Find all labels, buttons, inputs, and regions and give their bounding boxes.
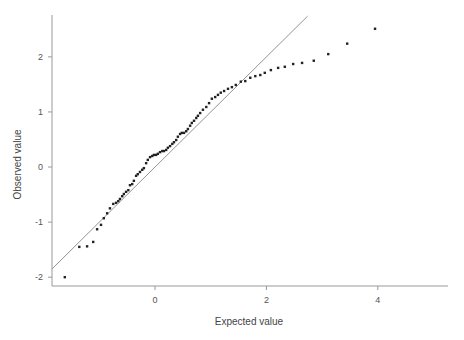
data-point xyxy=(202,109,204,111)
x-tick-label: 0 xyxy=(153,295,158,305)
data-point xyxy=(121,195,123,197)
x-tick-label: 2 xyxy=(264,295,269,305)
data-point xyxy=(208,102,210,104)
data-point xyxy=(177,136,179,138)
data-point xyxy=(86,245,88,247)
data-point xyxy=(149,156,151,158)
data-point xyxy=(159,151,161,153)
x-tick-label: 4 xyxy=(375,295,380,305)
data-point xyxy=(173,141,175,143)
data-point xyxy=(131,183,133,185)
data-point xyxy=(193,120,195,122)
data-point xyxy=(249,77,251,79)
data-point xyxy=(165,149,167,151)
data-point xyxy=(147,159,149,161)
data-point xyxy=(169,145,171,147)
data-point xyxy=(106,212,108,214)
reference-line xyxy=(52,16,308,269)
data-point xyxy=(115,202,117,204)
data-point xyxy=(125,191,127,193)
data-point xyxy=(254,75,256,77)
data-point xyxy=(313,60,315,62)
data-point xyxy=(223,90,225,92)
data-point xyxy=(78,246,80,248)
data-point xyxy=(127,189,129,191)
data-point xyxy=(191,122,193,124)
data-point xyxy=(227,88,229,90)
data-point xyxy=(123,193,125,195)
y-axis-title: Observed value xyxy=(12,129,23,199)
y-tick-label: 0 xyxy=(38,162,43,172)
data-point xyxy=(112,203,114,205)
data-point xyxy=(64,276,66,278)
data-point xyxy=(231,86,233,88)
y-tick-label: 2 xyxy=(38,52,43,62)
data-point xyxy=(264,72,266,74)
data-point xyxy=(214,96,216,98)
data-point xyxy=(197,115,199,117)
data-point xyxy=(100,224,102,226)
data-point xyxy=(133,180,135,182)
data-point xyxy=(145,162,147,164)
data-point xyxy=(374,28,376,30)
data-point xyxy=(167,147,169,149)
data-point xyxy=(143,167,145,169)
x-axis-title: Expected value xyxy=(215,316,284,327)
data-point xyxy=(103,217,105,219)
data-point xyxy=(109,207,111,209)
data-point xyxy=(175,139,177,141)
y-tick-label: -1 xyxy=(35,217,43,227)
data-point xyxy=(129,184,131,186)
data-point xyxy=(181,132,183,134)
data-point xyxy=(240,80,242,82)
data-point xyxy=(244,80,246,82)
data-point xyxy=(235,84,237,86)
data-point xyxy=(220,91,222,93)
data-point xyxy=(163,150,165,152)
data-point xyxy=(195,117,197,119)
data-point xyxy=(119,198,121,200)
data-point xyxy=(292,63,294,65)
data-point xyxy=(185,130,187,132)
data-point xyxy=(183,132,185,134)
data-point xyxy=(189,125,191,127)
data-point xyxy=(205,106,207,108)
data-point xyxy=(327,53,329,55)
data-point xyxy=(117,200,119,202)
y-tick-label: 1 xyxy=(38,107,43,117)
data-point xyxy=(284,66,286,68)
data-point xyxy=(217,94,219,96)
data-point xyxy=(346,42,348,44)
data-point xyxy=(157,153,159,155)
data-point xyxy=(96,228,98,230)
data-point xyxy=(139,171,141,173)
qq-plot: 024 -2-1012 Expected value Observed valu… xyxy=(0,0,464,340)
data-point xyxy=(211,98,213,100)
data-point xyxy=(277,67,279,69)
data-point xyxy=(137,173,139,175)
data-point xyxy=(301,62,303,64)
data-point xyxy=(153,154,155,156)
data-point xyxy=(259,74,261,76)
y-tick-label: -2 xyxy=(35,272,43,282)
data-point xyxy=(187,128,189,130)
data-point xyxy=(92,241,94,243)
data-point xyxy=(270,69,272,71)
data-point xyxy=(199,112,201,114)
